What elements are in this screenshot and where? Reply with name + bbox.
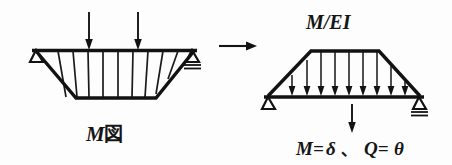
left-support-roller	[184, 50, 201, 69]
result-formula-shear: Q=	[364, 138, 389, 159]
load-arrow	[318, 52, 325, 96]
point-load-arrow-1	[85, 12, 93, 50]
diagram-canvas: M 図 M/EI	[0, 0, 452, 165]
structural-diagram-figure: M 図 M/EI	[0, 0, 452, 165]
load-arrow	[304, 60, 311, 96]
right-elastic-load-diagram: M/EI	[262, 11, 428, 159]
right-support-roller	[411, 97, 428, 116]
left-diagram-caption-kanji: 図	[104, 123, 123, 145]
result-formula-rotation: θ	[394, 138, 404, 159]
left-diagram-hatching	[58, 51, 178, 97]
load-arrow	[374, 52, 381, 96]
result-formula-deflection: δ	[326, 138, 336, 159]
transformation-arrow	[219, 42, 257, 51]
left-diagram-caption-symbol: M	[85, 122, 106, 146]
left-bending-moment-diagram: M 図	[30, 12, 201, 146]
load-arrow	[289, 75, 296, 96]
result-pointer-arrow	[348, 104, 356, 133]
result-formula-moment: M=	[295, 138, 324, 159]
right-support-pin	[262, 97, 275, 109]
right-diagram-caption: M/EI	[305, 11, 352, 33]
load-arrow	[360, 52, 367, 96]
result-formula-separator: 、	[341, 140, 357, 159]
point-load-arrow-2	[134, 12, 142, 50]
load-arrow	[332, 52, 339, 96]
distributed-load-arrows	[289, 52, 409, 96]
load-arrow	[346, 52, 353, 96]
